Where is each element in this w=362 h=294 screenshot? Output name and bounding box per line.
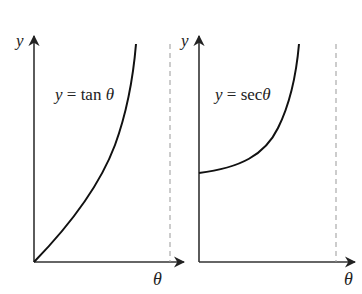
sec-curve xyxy=(199,44,299,173)
tan-x-axis-label: θ xyxy=(153,269,162,289)
sec-curve-label: y = secθ xyxy=(213,85,271,104)
trig-graphs: y θ y = tan θ y θ y = secθ xyxy=(0,0,362,294)
tan-curve-label: y = tan θ xyxy=(53,85,114,104)
tan-curve xyxy=(34,44,136,262)
tan-y-axis-label: y xyxy=(14,31,24,50)
sec-y-axis-label: y xyxy=(179,31,189,50)
sec-x-axis-label: θ xyxy=(344,269,353,289)
tan-panel: y θ y = tan θ xyxy=(14,31,184,289)
sec-panel: y θ y = secθ xyxy=(179,31,355,289)
